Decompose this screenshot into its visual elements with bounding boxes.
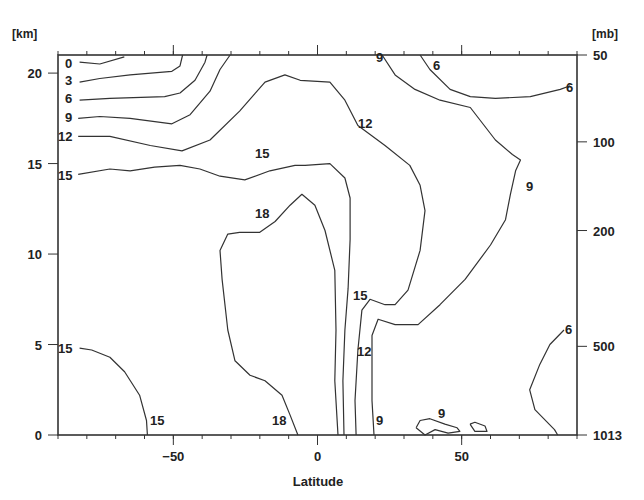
contour-line-9	[416, 419, 460, 435]
contour-chart: [km] [mb] −5005005101520501002005001013 …	[0, 0, 644, 500]
contour-label: 12	[357, 344, 371, 359]
contour-label: 9	[438, 406, 445, 421]
contour-line-15	[80, 348, 148, 435]
contour-label: 15	[353, 288, 367, 303]
contour-line-3	[80, 55, 183, 82]
y-left-tick-label: 0	[35, 428, 42, 443]
contour-label: 15	[150, 413, 164, 428]
plot-frame	[58, 55, 577, 435]
contour-label: 6	[433, 58, 440, 73]
contour-label: 6	[566, 80, 573, 95]
y-left-tick-label: 10	[28, 247, 42, 262]
y-right-tick-label: 200	[593, 224, 615, 239]
contour-label: 9	[376, 413, 383, 428]
contour-line-9	[470, 422, 487, 431]
y-left-tick-label: 20	[28, 66, 42, 81]
contour-lines	[78, 55, 570, 435]
y-right-tick-label: 500	[593, 339, 615, 354]
y-right-tick-label: 50	[593, 48, 607, 63]
y-right-tick-label: 100	[593, 135, 615, 150]
y-left-tick-label: 5	[35, 338, 42, 353]
x-tick-label: −50	[162, 449, 184, 464]
contour-line-0	[80, 57, 125, 64]
contour-line-9	[372, 55, 521, 435]
contour-label: 15	[58, 341, 72, 356]
contour-label: 18	[255, 206, 269, 221]
contour-line-6	[80, 55, 208, 100]
contour-label: 6	[65, 91, 72, 106]
contour-line-6	[420, 55, 570, 98]
contour-line-9	[78, 55, 230, 124]
x-tick-label: 0	[314, 449, 321, 464]
contour-label: 9	[376, 50, 383, 65]
x-tick-label: 50	[454, 449, 468, 464]
contour-label: 6	[565, 322, 572, 337]
contour-label: 18	[272, 413, 286, 428]
y-right-tick-label: 1013	[593, 428, 622, 443]
contour-label: 0	[65, 56, 72, 71]
left-axis-unit: [km]	[12, 27, 37, 41]
contour-label: 12	[358, 116, 372, 131]
contour-label: 15	[255, 146, 269, 161]
right-axis-unit: [mb]	[592, 27, 618, 41]
contour-label: 3	[65, 73, 72, 88]
contour-label: 9	[526, 179, 533, 194]
contour-line-6	[530, 330, 564, 435]
contour-labels: 0369121515129669181512151518996	[58, 50, 573, 428]
contour-label: 12	[58, 129, 72, 144]
contour-label: 15	[58, 168, 72, 183]
contour-line-18	[220, 194, 338, 435]
x-axis-label: Latitude	[293, 474, 344, 489]
contour-label: 9	[65, 110, 72, 125]
y-left-tick-label: 15	[28, 157, 42, 172]
contour-line-15	[78, 164, 350, 435]
